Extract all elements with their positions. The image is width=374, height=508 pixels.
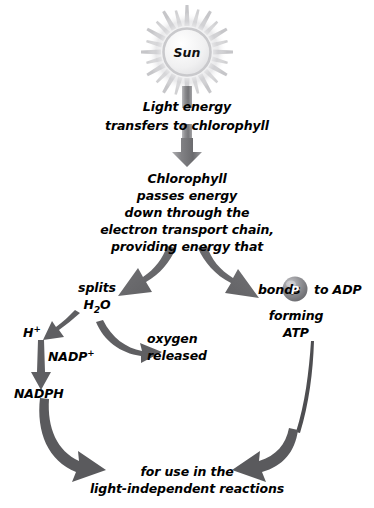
chlorophyll-line1: Chlorophyll [147, 171, 226, 187]
arrow-water-to-proton [43, 310, 80, 340]
proton-charge: + [33, 324, 40, 334]
water-H: H [83, 297, 93, 312]
phosphate-label: P [291, 284, 299, 297]
photosynthesis-light-reactions-diagram: Sun Light energy transfers to chlorophyl… [0, 0, 374, 508]
to-adp-label: to ADP [314, 282, 362, 298]
water-O: O [100, 297, 111, 312]
proton-base: H [23, 325, 33, 340]
arrow-nadph-to-outcome [39, 398, 106, 482]
outcome-line1: for use in the [140, 464, 233, 480]
oxygen-line1: oxygen [147, 331, 198, 347]
line-atp-down [296, 341, 314, 433]
arrow-down-to-chlorophyll [172, 138, 202, 167]
nadph-label: NADPH [14, 386, 64, 402]
nadp-charge: + [87, 348, 94, 358]
oxygen-line2: released [147, 348, 207, 364]
nadp-plus-label: NADP+ [48, 348, 95, 365]
outcome-line2: light-independent reactions [90, 481, 284, 497]
chlorophyll-line4: electron transport chain, [100, 222, 274, 238]
sun-label: Sun [174, 45, 201, 60]
chlorophyll-line3: down through the [125, 205, 250, 221]
light-energy-line2: transfers to chlorophyll [105, 118, 269, 134]
chlorophyll-line5: providing energy that [111, 239, 263, 255]
forming-line1: forming [269, 308, 324, 324]
arrow-atp-to-outcome [232, 428, 298, 482]
light-energy-line1: Light energy [143, 99, 231, 115]
nadp-base: NADP [48, 349, 87, 364]
chlorophyll-line2: passes energy [137, 188, 237, 204]
splits-label: splits [78, 280, 116, 296]
water-formula: H2O [83, 297, 110, 315]
forming-line2: ATP [283, 325, 309, 341]
proton-label: H+ [23, 324, 41, 341]
